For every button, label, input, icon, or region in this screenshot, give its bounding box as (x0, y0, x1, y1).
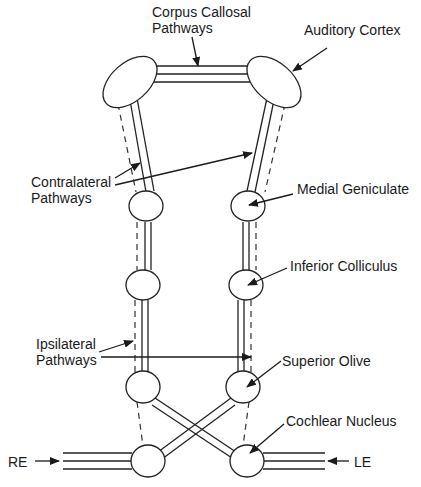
auditory-pathway-diagram: Corpus Callosal Pathways Auditory Cortex… (0, 0, 421, 487)
cochlear-nucleus-arrow (250, 424, 284, 453)
auditory-cortex-arrow (293, 48, 327, 71)
left-superior-olive-node (126, 371, 160, 403)
contralateral-label-line2: Pathways (31, 190, 92, 206)
right-vertical-pathways (238, 222, 256, 446)
superior-olive-label: Superior Olive (282, 353, 371, 369)
cochlear-nucleus-label: Cochlear Nucleus (286, 413, 397, 429)
inferior-colliculus-label: Inferior Colliculus (290, 258, 397, 274)
corpus-callosal-label-line2: Pathways (152, 20, 213, 36)
left-cochlear-nucleus-node (131, 445, 165, 477)
right-cochlear-nucleus-node (230, 445, 264, 477)
left-medial-geniculate-node (129, 191, 163, 221)
left-contralateral-pathway (118, 98, 154, 192)
crossing-pathways (152, 398, 236, 459)
left-ear-input (263, 453, 325, 469)
contralateral-left-arrow (115, 163, 140, 178)
ipsilateral-left-arrow (99, 341, 133, 352)
contralateral-right-arrow (115, 153, 252, 185)
left-vertical-pathways (135, 222, 151, 446)
right-superior-olive-node (226, 371, 260, 403)
ipsilateral-label-line1: Ipsilateral (36, 336, 96, 352)
corpus-callosal-arrow (192, 37, 198, 66)
medial-geniculate-label: Medial Geniculate (297, 181, 409, 197)
corpus-callosum-pathway (143, 66, 262, 82)
auditory-cortex-label: Auditory Cortex (304, 22, 400, 38)
right-ear-label: RE (8, 454, 27, 470)
right-ear-input (63, 453, 132, 469)
left-ear-label: LE (354, 454, 371, 470)
right-inferior-colliculus-node (229, 270, 263, 300)
right-medial-geniculate-node (231, 191, 265, 221)
ipsilateral-label-line2: Pathways (36, 352, 97, 368)
contralateral-label-line1: Contralateral (31, 174, 111, 190)
corpus-callosal-label-line1: Corpus Callosal (152, 4, 251, 20)
right-contralateral-pathway (247, 98, 285, 192)
left-inferior-colliculus-node (126, 270, 160, 300)
